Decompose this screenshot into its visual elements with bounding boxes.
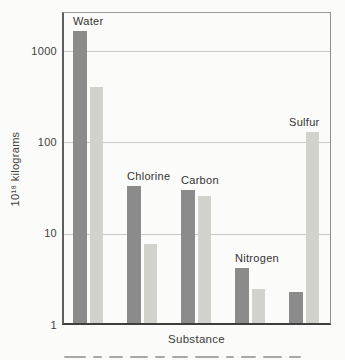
bar-nitrogen-dark (235, 268, 249, 325)
figure: 1101001000 WaterChlorineCarbonNitrogenSu… (0, 0, 345, 360)
category-label-water: Water (73, 15, 103, 28)
category-label-nitrogen: Nitrogen (235, 252, 279, 265)
category-label-carbon: Carbon (181, 174, 219, 187)
bar-carbon-dark (181, 190, 195, 325)
bar-carbon-light (198, 196, 211, 325)
bar-sulfur-light (306, 132, 319, 325)
x-axis-title: Substance (62, 333, 331, 345)
y-tick-label-100: 100 (0, 136, 57, 149)
bar-chlorine-dark (127, 186, 141, 325)
gridline-100 (63, 142, 330, 143)
category-label-sulfur: Sulfur (289, 116, 320, 129)
cropped-caption-fragment (64, 356, 334, 360)
bar-water-light (90, 87, 103, 325)
gridline-1000 (63, 51, 330, 52)
category-label-chlorine: Chlorine (127, 170, 170, 183)
gridline-10 (63, 234, 330, 235)
bar-water-dark (73, 31, 87, 325)
bar-nitrogen-light (252, 289, 265, 325)
y-tick-label-10: 10 (0, 227, 57, 240)
y-tick-label-1000: 1000 (0, 45, 57, 58)
bar-sulfur-dark (289, 292, 303, 325)
y-tick-label-1: 1 (0, 319, 57, 332)
bar-chlorine-light (144, 244, 157, 325)
